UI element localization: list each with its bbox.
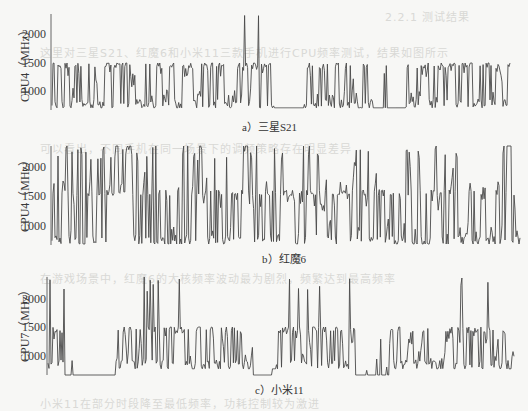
frequency-trace: [48, 277, 514, 375]
chart-caption: c）小米11: [255, 381, 303, 397]
